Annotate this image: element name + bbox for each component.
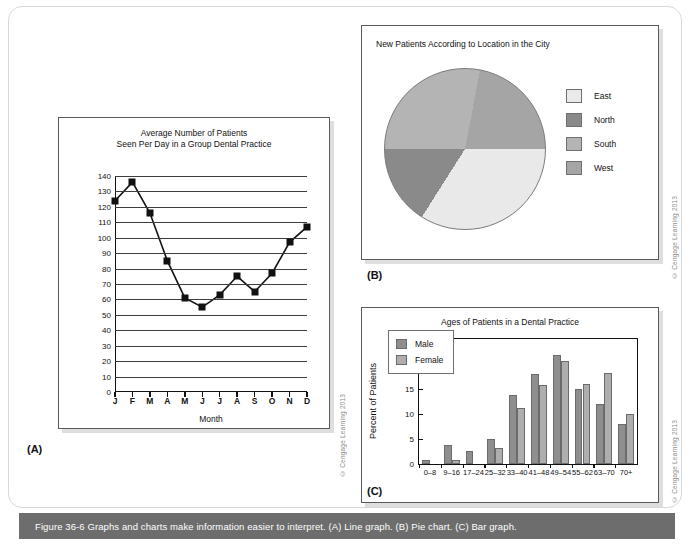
gridline bbox=[115, 222, 307, 223]
line-graph-ytick-label: 70 bbox=[102, 280, 111, 289]
line-graph-xtick-label: M bbox=[181, 396, 188, 406]
bar-male-0–8 bbox=[422, 460, 430, 464]
line-graph-ytick-label: 80 bbox=[102, 264, 111, 273]
line-graph-ytick-label: 10 bbox=[102, 372, 111, 381]
gridline bbox=[115, 299, 307, 300]
bar-female-70+ bbox=[626, 414, 634, 464]
figure-page: Average Number of Patients Seen Per Day … bbox=[8, 6, 682, 508]
data-point-marker bbox=[216, 291, 223, 298]
bar-graph-xtick bbox=[441, 464, 442, 468]
bar-graph-title: Ages of Patients in a Dental Practice bbox=[362, 317, 658, 327]
line-graph-xtick-label: S bbox=[252, 396, 258, 406]
gridline bbox=[115, 361, 307, 362]
bar-graph-ytick bbox=[419, 439, 423, 440]
gridline bbox=[115, 315, 307, 316]
line-graph-title-line2: Seen Per Day in a Group Dental Practice bbox=[59, 139, 329, 150]
gridline bbox=[115, 191, 307, 192]
line-graph-xaxis-title: Month bbox=[115, 414, 307, 424]
line-graph-ytick-label: 50 bbox=[102, 310, 111, 319]
bar-graph-xtick-label: 49–54 bbox=[550, 468, 571, 477]
legend-item-male: Male bbox=[396, 336, 443, 352]
bar-female-63–70 bbox=[604, 373, 612, 464]
bar-graph-xtick-label: 0–8 bbox=[424, 468, 437, 477]
data-point-marker bbox=[129, 179, 136, 186]
legend-swatch-east bbox=[566, 89, 582, 103]
data-point-marker bbox=[269, 270, 276, 277]
figure-caption-bar: Figure 36-6 Graphs and charts make infor… bbox=[19, 513, 675, 539]
line-graph-ytick-label: 140 bbox=[98, 172, 111, 181]
legend-label-south: South bbox=[594, 139, 616, 149]
bar-male-70+ bbox=[618, 424, 626, 464]
line-graph-panel: Average Number of Patients Seen Per Day … bbox=[58, 117, 330, 429]
bar-graph-xtick-label: 17–24 bbox=[463, 468, 484, 477]
gridline bbox=[115, 253, 307, 254]
bar-male-63–70 bbox=[596, 404, 604, 465]
line-graph-xtick-label: J bbox=[113, 396, 118, 406]
bar-graph-panel: Ages of Patients in a Dental Practice Pe… bbox=[361, 307, 659, 503]
data-point-marker bbox=[234, 273, 241, 280]
bar-female-41–48 bbox=[539, 385, 547, 464]
line-graph-ytick-label: 20 bbox=[102, 357, 111, 366]
pie-chart-title: New Patients According to Location in th… bbox=[376, 39, 550, 49]
bar-graph-ytick-label: 10 bbox=[405, 410, 414, 419]
data-point-marker bbox=[286, 239, 293, 246]
data-point-marker bbox=[181, 294, 188, 301]
data-point-marker bbox=[112, 197, 119, 204]
gridline bbox=[115, 377, 307, 378]
legend-label-female: Female bbox=[415, 355, 443, 365]
bar-male-25–32 bbox=[487, 439, 495, 465]
line-graph-plot-area: 0102030405060708090100110120130140JFMAMJ… bbox=[115, 176, 307, 392]
bar-female-25–32 bbox=[495, 448, 503, 464]
panel-label-a: (A) bbox=[27, 443, 42, 455]
line-graph-xtick-label: A bbox=[234, 396, 240, 406]
bar-graph-ytick-label: 0 bbox=[410, 460, 414, 469]
bar-graph-xtick-label: 9–16 bbox=[443, 468, 460, 477]
line-graph-ytick-label: 120 bbox=[98, 202, 111, 211]
pie-chart-panel: New Patients According to Location in th… bbox=[361, 25, 659, 260]
panel-label-b: (B) bbox=[367, 269, 382, 281]
legend-swatch-west bbox=[566, 161, 582, 175]
legend-swatch-female bbox=[396, 355, 407, 365]
line-graph-ytick-label: 60 bbox=[102, 295, 111, 304]
legend-item-female: Female bbox=[396, 352, 443, 368]
credit-bar-graph: © Cengage Learning 2013 bbox=[671, 403, 678, 503]
legend-label-male: Male bbox=[415, 339, 433, 349]
gridline bbox=[115, 346, 307, 347]
legend-item-west: West bbox=[566, 156, 616, 180]
bar-male-33–40 bbox=[509, 395, 517, 465]
line-graph-title: Average Number of Patients Seen Per Day … bbox=[59, 128, 329, 150]
bar-graph-xtick-label: 41–48 bbox=[528, 468, 549, 477]
bar-graph-xtick-label: 55–62 bbox=[572, 468, 593, 477]
bar-female-55–62 bbox=[583, 384, 591, 464]
line-graph-xtick-label: O bbox=[269, 396, 276, 406]
legend-swatch-male bbox=[396, 339, 407, 349]
bar-male-9–16 bbox=[444, 445, 452, 464]
legend-label-north: North bbox=[594, 115, 615, 125]
bar-male-41–48 bbox=[531, 374, 539, 464]
bar-graph-ytick bbox=[419, 389, 423, 390]
legend-item-north: North bbox=[566, 108, 616, 132]
line-graph-xtick-label: F bbox=[130, 396, 135, 406]
gridline bbox=[115, 330, 307, 331]
gridline bbox=[115, 238, 307, 239]
line-graph-xtick-label: J bbox=[200, 396, 205, 406]
line-graph-xtick-label: M bbox=[146, 396, 153, 406]
bar-male-49–54 bbox=[553, 355, 561, 465]
legend-swatch-north bbox=[566, 113, 582, 127]
pie-chart-legend: EastNorthSouthWest bbox=[566, 84, 616, 180]
line-graph-ytick-label: 130 bbox=[98, 187, 111, 196]
bar-graph-xtick-label: 33–40 bbox=[507, 468, 528, 477]
line-graph-ytick-label: 110 bbox=[98, 218, 111, 227]
legend-swatch-south bbox=[566, 137, 582, 151]
pie-circle bbox=[384, 68, 546, 230]
bar-graph-yaxis-title: Percent of Patients bbox=[368, 338, 378, 463]
pie-chart-graphic bbox=[384, 68, 546, 230]
bar-graph-xtick bbox=[615, 464, 616, 468]
line-graph-xtick-label: N bbox=[286, 396, 292, 406]
legend-item-south: South bbox=[566, 132, 616, 156]
line-graph-xtick-label: D bbox=[304, 396, 310, 406]
bar-graph-xtick-label: 63–70 bbox=[594, 468, 615, 477]
legend-label-west: West bbox=[594, 163, 613, 173]
credit-line-graph: © Cengage Learning 2013 bbox=[339, 365, 346, 477]
bar-male-17–24 bbox=[466, 451, 474, 464]
